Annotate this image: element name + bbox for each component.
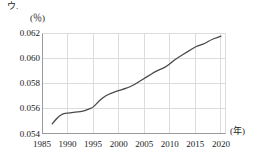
plot-area xyxy=(42,33,226,134)
y-tick-label: 0.062 xyxy=(20,29,40,38)
x-tick-label: 2005 xyxy=(135,139,153,149)
y-tick-label: 0.054 xyxy=(20,130,40,139)
x-tick-label: 2015 xyxy=(186,139,204,149)
x-tick-label: 2020 xyxy=(212,139,230,149)
plot-frame xyxy=(42,33,226,134)
x-tick-label: 2000 xyxy=(110,139,128,149)
y-tick-label: 0.060 xyxy=(20,54,40,63)
x-tick-label: 1990 xyxy=(59,139,77,149)
chart-figure: ウ. (％) (年) 0.0540.0560.0580.0600.062 198… xyxy=(0,0,261,164)
y-tick-label: 0.058 xyxy=(20,79,40,88)
x-tick-label: 1995 xyxy=(84,139,102,149)
x-tick-label: 2010 xyxy=(161,139,179,149)
x-axis-unit-label: (年) xyxy=(230,126,245,137)
y-tick-label: 0.056 xyxy=(20,104,40,113)
x-tick-label: 1985 xyxy=(33,139,51,149)
